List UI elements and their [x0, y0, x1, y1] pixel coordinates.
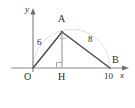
right-angle-marker-h [57, 63, 63, 69]
x-axis-label: x [120, 71, 124, 80]
semicircle-arc [33, 30, 110, 69]
length-label-ab: 8 [88, 35, 93, 44]
point-label-b: B [112, 55, 119, 65]
vertex-dot-a [61, 31, 64, 34]
point-label-a: A [58, 14, 65, 24]
x-tick-label-10: 10 [104, 72, 113, 81]
length-label-oa: 6 [37, 38, 42, 47]
point-label-h: H [58, 72, 65, 82]
segment-ab [62, 32, 110, 68]
y-axis-label: y [25, 5, 29, 14]
point-label-o: O [24, 72, 31, 82]
y-axis-arrowhead [30, 8, 35, 15]
geometry-figure: A B H O 6 8 10 x y [0, 0, 135, 108]
